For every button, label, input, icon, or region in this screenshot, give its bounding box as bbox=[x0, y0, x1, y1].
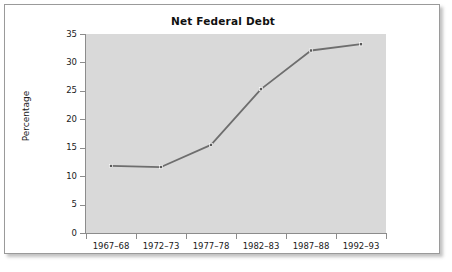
figure-frame: Net Federal Debt 05101520253035 1967–681… bbox=[4, 4, 440, 254]
series-line bbox=[111, 44, 361, 167]
data-point-marker bbox=[109, 164, 112, 167]
data-point-marker bbox=[259, 88, 262, 91]
data-point-marker bbox=[309, 49, 312, 52]
figure-root: Net Federal Debt 05101520253035 1967–681… bbox=[0, 0, 452, 272]
data-point-marker bbox=[359, 43, 362, 46]
data-point-marker bbox=[159, 165, 162, 168]
data-point-marker bbox=[209, 143, 212, 146]
data-series-layer bbox=[5, 5, 441, 255]
